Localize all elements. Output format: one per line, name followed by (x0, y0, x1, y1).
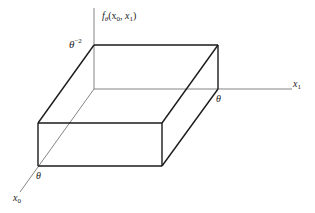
x0-extent-label: θ (36, 170, 41, 181)
x0-axis (20, 89, 94, 192)
diagram-canvas: fθ(x0, x1) θ−2 x1 x0 θ θ (0, 0, 315, 213)
x1-axis-label: x1 (292, 78, 301, 91)
vertical-axis-label: fθ(x0, x1) (102, 10, 136, 23)
x1-extent-label: θ (216, 93, 221, 104)
box (38, 45, 218, 166)
height-label: θ−2 (69, 37, 82, 50)
x0-axis-label: x0 (12, 192, 21, 205)
